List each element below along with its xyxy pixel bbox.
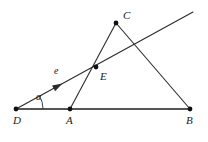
point-label-D: D <box>12 114 21 126</box>
point-B <box>188 107 193 112</box>
ray-direction-arrow-icon <box>52 81 64 91</box>
point-E <box>94 65 99 70</box>
point-D <box>14 107 19 112</box>
point-C <box>114 21 119 26</box>
segment-AC <box>70 23 116 109</box>
point-label-C: C <box>123 9 131 21</box>
point-label-A: A <box>65 114 73 126</box>
angle-label-alpha: α <box>36 91 42 102</box>
ray-e <box>16 12 193 109</box>
geometry-figure: D A B C E e α <box>0 0 208 142</box>
point-label-B: B <box>186 114 193 126</box>
ray-label-e: e <box>54 65 59 76</box>
geometry-canvas: D A B C E e α <box>0 0 208 142</box>
point-A <box>68 107 73 112</box>
segment-CB <box>116 23 190 109</box>
point-label-E: E <box>99 70 107 82</box>
